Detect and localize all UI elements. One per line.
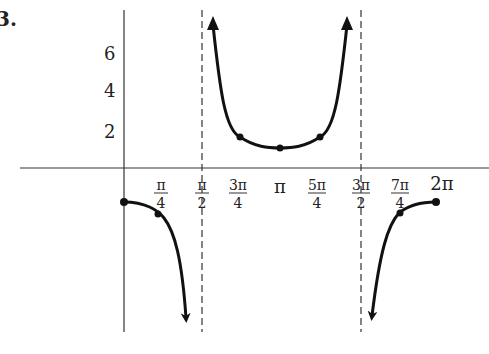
point <box>155 211 162 218</box>
point <box>277 145 284 152</box>
svg-text:2: 2 <box>198 195 207 211</box>
svg-text:π: π <box>197 177 206 193</box>
x-tick-pi: π <box>274 176 286 197</box>
svg-text:3π: 3π <box>352 177 370 193</box>
svg-text:7π: 7π <box>391 177 409 193</box>
y-tick-6: 6 <box>104 43 115 64</box>
svg-text:4: 4 <box>313 195 322 211</box>
x-tick-pi-over-2: π 2 <box>195 177 209 211</box>
point <box>237 134 244 141</box>
svg-text:4: 4 <box>396 195 405 211</box>
x-tick-3pi-over-2: 3π 2 <box>352 177 370 211</box>
secant-graph: 3. 6 4 2 π 4 π 2 3π 4 π 5π 4 3π 2 7π 4 2… <box>0 0 489 354</box>
svg-text:5π: 5π <box>308 177 326 193</box>
svg-text:3π: 3π <box>229 177 247 193</box>
curve-branch-1 <box>124 202 186 318</box>
point <box>120 198 128 206</box>
point <box>432 198 440 206</box>
x-tick-3pi-over-4: 3π 4 <box>229 177 247 211</box>
curve-branch-3 <box>372 202 436 316</box>
y-tick-4: 4 <box>104 80 115 101</box>
svg-text:2: 2 <box>357 195 366 211</box>
problem-number: 3. <box>0 7 17 31</box>
x-tick-pi-over-4: π 4 <box>154 177 168 211</box>
y-tick-2: 2 <box>104 121 115 142</box>
svg-text:4: 4 <box>157 195 166 211</box>
x-tick-2pi: 2π <box>430 173 453 194</box>
point <box>317 134 324 141</box>
svg-text:4: 4 <box>234 195 243 211</box>
x-tick-7pi-over-4: 7π 4 <box>391 177 409 211</box>
svg-text:π: π <box>156 177 165 193</box>
curve-branch-2 <box>213 25 347 148</box>
x-tick-5pi-over-4: 5π 4 <box>308 177 326 211</box>
